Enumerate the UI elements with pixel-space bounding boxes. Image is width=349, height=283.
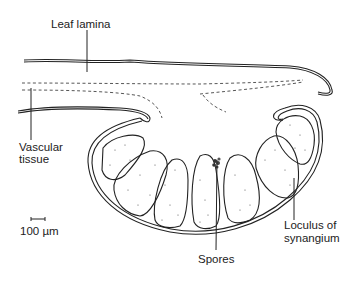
- label-scale-bar: 100 µm: [20, 225, 59, 238]
- stipple: [109, 124, 305, 222]
- loculus-7: [276, 116, 314, 165]
- label-vascular-line2: tissue: [19, 153, 49, 166]
- scale-bar: [31, 217, 45, 221]
- loculus-6: [256, 136, 299, 198]
- spore-cluster: [212, 157, 220, 168]
- label-leaf-lamina: Leaf lamina: [51, 18, 110, 31]
- leaf-lower-left-inner: [18, 109, 148, 119]
- label-loculus-line2: synangium: [284, 232, 340, 245]
- loculus-1: [102, 135, 144, 179]
- vascular-dash-1: [22, 80, 303, 84]
- vascular-dash-4: [203, 95, 226, 112]
- label-loculus-line1: Loculus of: [284, 219, 336, 232]
- loculus-5: [224, 155, 260, 223]
- synangium-wall-outer: [88, 105, 323, 234]
- label-spores: Spores: [198, 253, 234, 266]
- synangium-diagram: Leaf lamina Vascular tissue 100 µm Spore…: [0, 0, 349, 283]
